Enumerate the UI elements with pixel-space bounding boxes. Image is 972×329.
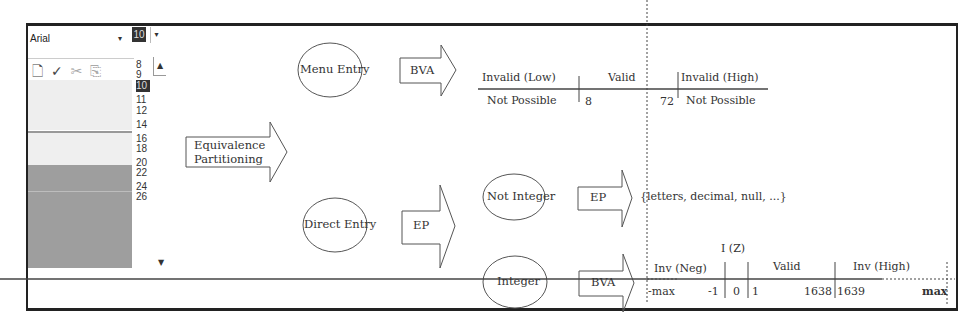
- max-value: max: [922, 285, 947, 298]
- menu-max-valid: 72: [660, 95, 674, 108]
- menu-min-valid: 8: [585, 95, 592, 108]
- diagram-shapes: [0, 0, 972, 329]
- menu-valid-header: Valid: [608, 71, 636, 84]
- inv-high-min-value: 1639: [837, 285, 865, 298]
- inv-neg-header: Inv (Neg): [654, 262, 707, 275]
- direct-entry-label: Direct Entry: [304, 217, 376, 231]
- menu-invalid-low-header: Invalid (Low): [482, 71, 556, 84]
- menu-entry-label: Menu Entry: [300, 62, 369, 76]
- neg-one-value: -1: [708, 285, 719, 298]
- int-valid-header: Valid: [773, 260, 801, 273]
- integer-label: Integer: [497, 274, 540, 288]
- menu-not-possible-high: Not Possible: [686, 94, 756, 107]
- menu-invalid-high-header: Invalid (High): [681, 71, 759, 84]
- not-integer-result: {letters, decimal, null, ...}: [640, 190, 787, 203]
- direct-ep-label: EP: [413, 218, 429, 232]
- valid-max-value: 1638: [804, 285, 832, 298]
- root-label: Equivalence Partitioning: [194, 138, 265, 166]
- integer-bva-label: BVA: [591, 275, 615, 289]
- menu-not-possible-low: Not Possible: [487, 94, 557, 107]
- neg-max-value: -max: [648, 285, 675, 298]
- zero-header: I (Z): [721, 242, 745, 255]
- inv-high-header: Inv (High): [853, 260, 910, 273]
- zero-value: 0: [733, 285, 740, 298]
- not-integer-ep-label: EP: [590, 190, 606, 204]
- not-integer-label: Not Integer: [487, 189, 555, 203]
- menu-bva-label: BVA: [410, 63, 434, 77]
- one-value: 1: [752, 285, 759, 298]
